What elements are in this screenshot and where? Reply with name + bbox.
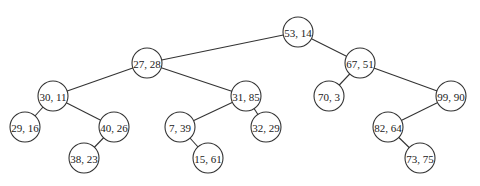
- node-label: 82, 64: [374, 122, 402, 134]
- tree-node: 7, 39: [165, 112, 195, 142]
- node-label: 99, 90: [437, 91, 465, 103]
- tree-node: 32, 29: [251, 112, 281, 142]
- tree-nodes: 53, 1427, 2867, 5130, 1131, 8570, 399, 9…: [10, 17, 466, 173]
- tree-node: 27, 28: [132, 48, 162, 78]
- node-label: 30, 11: [39, 91, 66, 103]
- node-label: 70, 3: [318, 91, 341, 103]
- tree-node: 99, 90: [436, 81, 466, 111]
- tree-edge: [147, 63, 246, 96]
- node-label: 73, 75: [406, 153, 434, 165]
- node-label: 29, 16: [11, 122, 39, 134]
- tree-edge: [147, 32, 298, 63]
- tree-node: 73, 75: [405, 143, 435, 173]
- node-label: 31, 85: [232, 91, 260, 103]
- node-label: 53, 14: [284, 27, 312, 39]
- node-label: 38, 23: [70, 153, 98, 165]
- tree-node: 53, 14: [283, 17, 313, 47]
- tree-node: 82, 64: [373, 112, 403, 142]
- tree-node: 15, 61: [193, 143, 223, 173]
- node-label: 32, 29: [252, 122, 280, 134]
- node-label: 7, 39: [169, 122, 192, 134]
- tree-node: 70, 3: [314, 81, 344, 111]
- tree-node: 31, 85: [231, 81, 261, 111]
- tree-node: 67, 51: [345, 48, 375, 78]
- tree-node: 38, 23: [69, 143, 99, 173]
- node-label: 67, 51: [346, 58, 374, 70]
- tree-node: 40, 26: [99, 112, 129, 142]
- node-label: 27, 28: [133, 58, 161, 70]
- node-label: 40, 26: [100, 122, 128, 134]
- kd-tree-diagram: 53, 1427, 2867, 5130, 1131, 8570, 399, 9…: [0, 0, 480, 186]
- tree-node: 29, 16: [10, 112, 40, 142]
- tree-node: 30, 11: [38, 81, 68, 111]
- node-label: 15, 61: [194, 153, 222, 165]
